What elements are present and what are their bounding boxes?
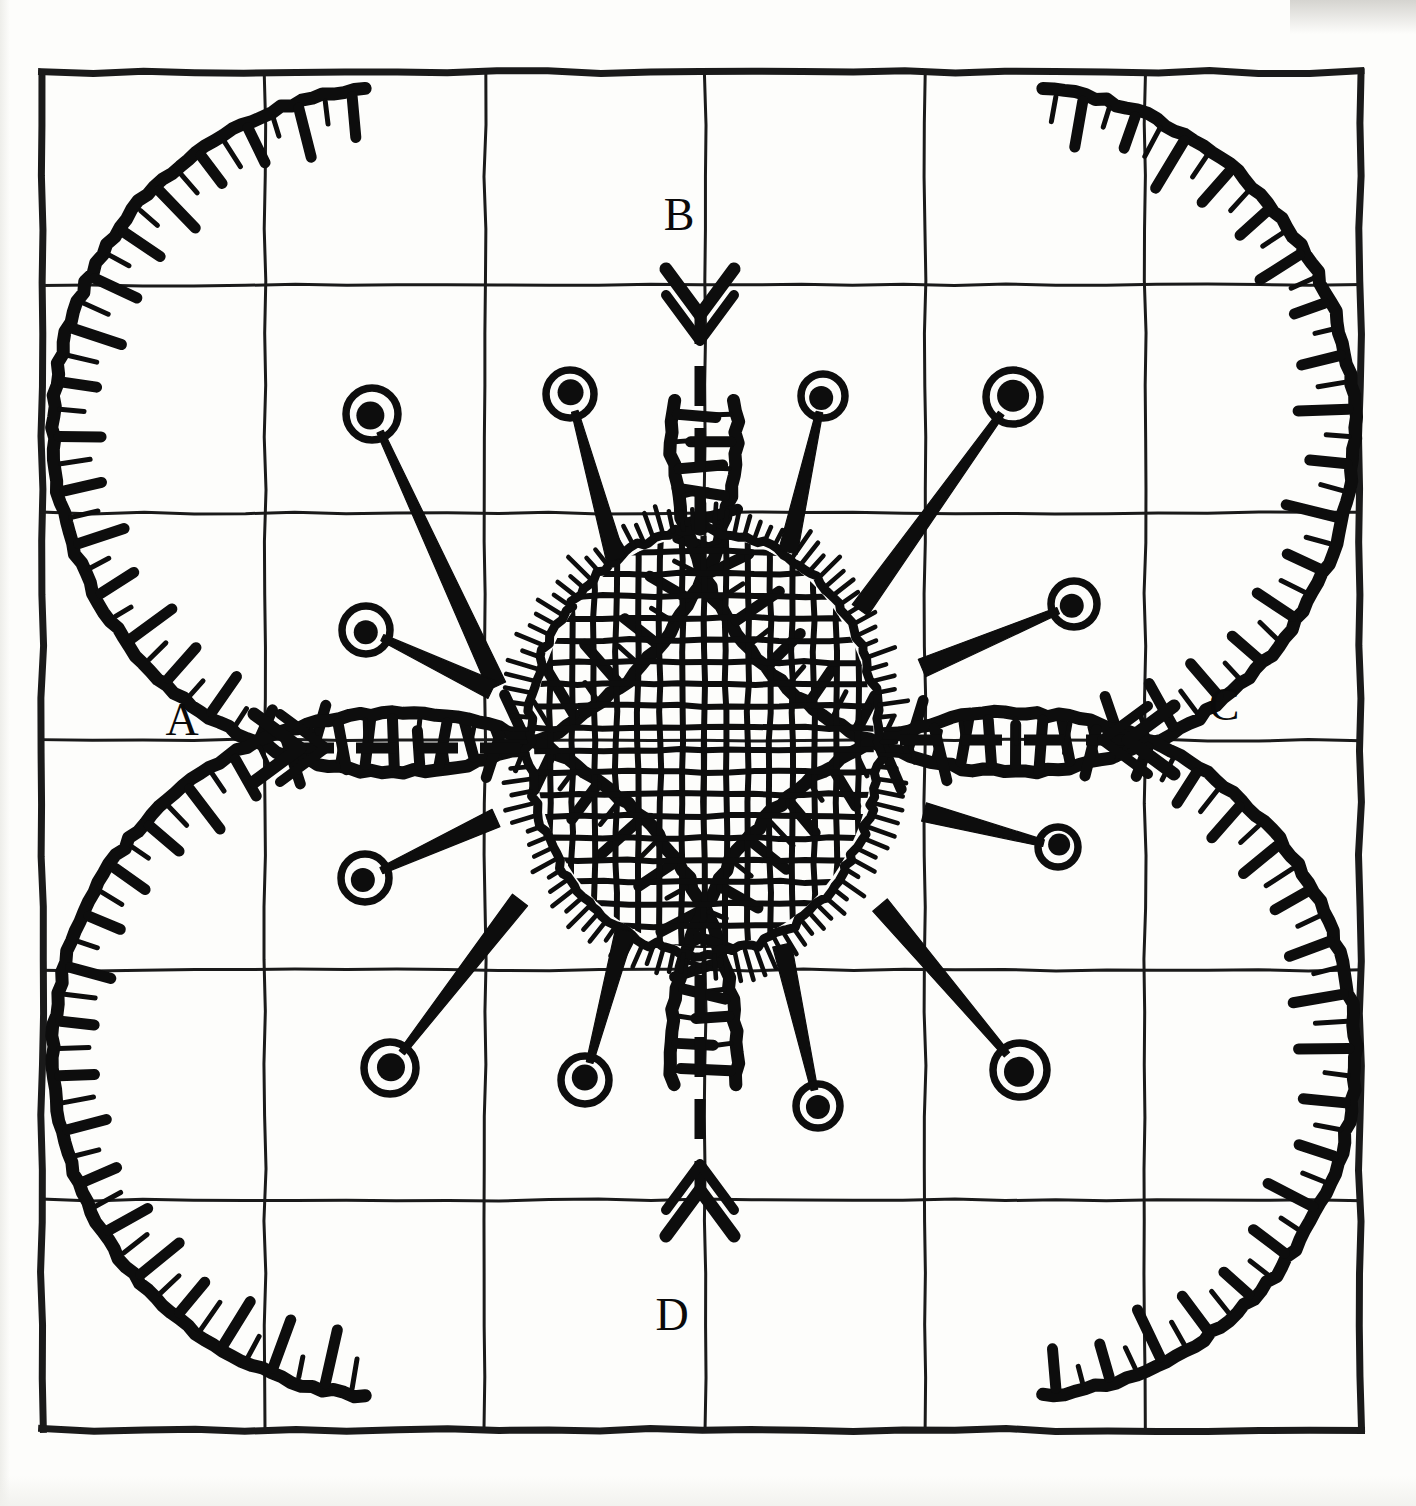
axis-d-label: D	[655, 1289, 688, 1340]
disc-bristle	[755, 522, 760, 537]
pin-10[interactable]	[561, 928, 634, 1104]
lobe-tick-long	[1286, 505, 1337, 518]
lobe-tick-short	[1260, 623, 1276, 639]
axis-c-label: C	[1209, 679, 1240, 730]
disc-bristle	[871, 664, 886, 668]
lobe-tick-long	[79, 529, 124, 544]
grid-line-horizontal	[42, 284, 1360, 286]
lobe-tick-short	[169, 807, 187, 826]
disc-hatch-horizontal	[529, 925, 880, 927]
disc-hatch-horizontal	[529, 551, 882, 553]
lobe-tick-long	[1299, 1048, 1349, 1049]
lobe-tick-long	[1202, 172, 1228, 202]
pin-2[interactable]	[546, 370, 625, 563]
lobe-tick-short	[1315, 329, 1333, 333]
lobe-tick-short	[1145, 128, 1160, 156]
lobe-tick-short	[1318, 382, 1345, 387]
lobe-tick-short	[159, 1276, 179, 1295]
pin-stalk	[586, 928, 634, 1064]
pin-head-dot	[806, 1095, 830, 1119]
disc-bristle	[765, 527, 771, 541]
lobe-tick-long	[169, 648, 196, 679]
lobe-tick-short	[1103, 108, 1109, 127]
lobe-tick-long	[201, 156, 222, 184]
lobe-tick-short	[1212, 1291, 1229, 1312]
disc-hatch-horizontal	[529, 903, 880, 905]
lobe-tick-short	[1201, 789, 1219, 812]
lobe-tick-long	[1310, 460, 1347, 464]
disc-hatch-horizontal	[527, 727, 880, 730]
pin-8[interactable]	[922, 803, 1078, 867]
pin-stalk	[380, 809, 500, 873]
lobe-tick-short	[642, 843, 656, 857]
disc-hatch-horizontal	[529, 617, 879, 619]
disc-bristle	[826, 571, 843, 586]
disc-bristle	[504, 779, 529, 783]
lobe-tick-short	[67, 355, 96, 362]
lobe-tick-short	[224, 141, 240, 167]
disc-hatch-horizontal	[529, 639, 879, 641]
lobe-tick-short	[677, 1071, 694, 1072]
lobe-tick-long	[60, 1075, 95, 1076]
lobe-tick-long	[352, 97, 356, 138]
lobe-tick-short	[79, 942, 98, 948]
disc-bristle	[550, 880, 567, 892]
lobe-tick-short	[62, 1097, 93, 1103]
lobe-tick-long	[65, 482, 102, 490]
lobe-tick-long	[248, 128, 265, 163]
disc-bristle	[681, 512, 683, 530]
lobe-tick-long	[89, 916, 120, 929]
disc-hatch-vertical	[791, 529, 793, 954]
lobe-tick-short	[1016, 719, 1017, 743]
lobe-tick-long	[212, 677, 237, 712]
lobe-tick-long	[1303, 1099, 1345, 1103]
lobe-tick-short	[1225, 663, 1239, 678]
axis-a-label: A	[165, 694, 198, 745]
grid-line-horizontal	[42, 1428, 1362, 1431]
disc-bristle	[853, 860, 875, 872]
lobe-tick-short	[101, 892, 121, 905]
pin-1[interactable]	[346, 388, 506, 690]
pin-head-dot	[997, 380, 1029, 412]
lobe-tick-short	[1266, 869, 1292, 886]
lobe-tick-short	[352, 1359, 357, 1388]
disc-bristle	[533, 860, 555, 872]
lobe-tick-short	[1315, 1021, 1347, 1023]
lobe-tick-long	[1293, 994, 1343, 1003]
lobe-tick-short	[201, 1302, 220, 1329]
lobe-tick-long	[1257, 593, 1292, 616]
lobe-tick-long	[1302, 355, 1341, 365]
lobe-tick-short	[124, 1235, 148, 1254]
pin-9[interactable]	[364, 894, 528, 1094]
pin-6[interactable]	[918, 581, 1097, 677]
pin-4[interactable]	[852, 370, 1040, 616]
disc-bristle	[875, 803, 903, 810]
lobe-tick-short	[248, 1336, 259, 1357]
lobe-tick-short	[235, 709, 246, 726]
pin-12[interactable]	[873, 899, 1047, 1097]
disc-bristle	[503, 754, 526, 755]
disc-bristle	[879, 701, 908, 705]
grid-line-vertical	[1358, 72, 1361, 1429]
pin-stalk	[572, 410, 626, 562]
lobe-tick-long	[1275, 892, 1307, 910]
disc-bristle	[693, 956, 694, 971]
disc-bristle	[571, 576, 582, 586]
disc-bristle	[554, 595, 568, 605]
lobe-tick-long	[224, 1302, 250, 1345]
lobe-tick-short	[1250, 1261, 1267, 1274]
disc-bristle	[505, 803, 533, 810]
lobe-tick-short	[1078, 1366, 1083, 1383]
lobe-tick-long	[677, 414, 715, 417]
lobe-tick-short	[1231, 191, 1249, 211]
lobe-tick-short	[1314, 968, 1338, 974]
lobe-tick-long	[71, 968, 111, 979]
disc-bristle	[810, 914, 823, 929]
pin-7[interactable]	[341, 809, 500, 902]
disc-bristle	[590, 921, 606, 942]
lobe-tick-long	[190, 789, 220, 829]
pin-3[interactable]	[779, 374, 845, 554]
lobe-tick-short	[1125, 1348, 1135, 1368]
disc-bristle	[538, 600, 561, 614]
lobe-tick-long	[124, 232, 161, 257]
